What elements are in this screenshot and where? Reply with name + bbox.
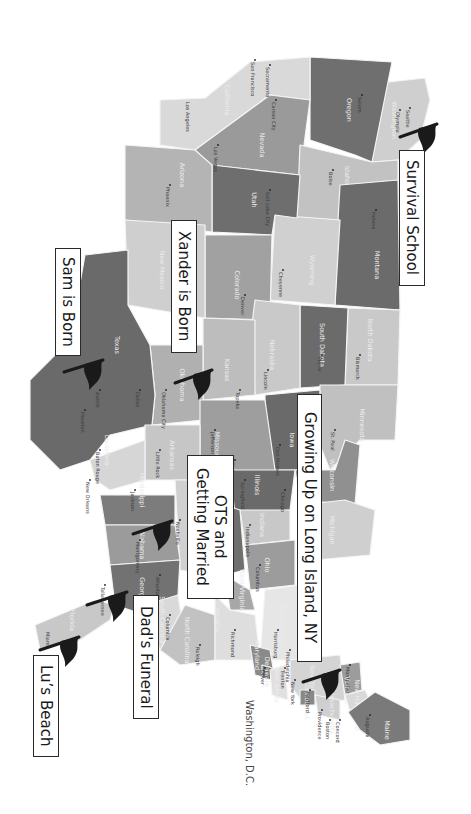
city-dot-icon (329, 719, 331, 721)
city-label-augusta: Augusta (364, 717, 371, 738)
event-label-dads-funeral: Dad's Funeral (133, 595, 159, 719)
state-label: South Carolina (158, 596, 166, 644)
city-label-pierre: Pierre (317, 357, 323, 371)
city-dot-icon (339, 719, 341, 721)
city-label-raleigh: Raleigh (194, 647, 201, 666)
city-label-nashville: Nashville (175, 522, 181, 545)
state-label: New Mexico (158, 251, 166, 290)
city-dot-icon (321, 354, 323, 356)
city-dot-icon (309, 689, 311, 691)
city-label-boston: Boston (325, 722, 331, 739)
city-dot-icon (279, 444, 281, 446)
city-label-new-york: New York (290, 682, 296, 705)
city-dot-icon (269, 189, 271, 191)
city-dot-icon (234, 459, 236, 461)
city-dot-icon (334, 429, 336, 431)
city-label-las-vegas: Las Vegas (212, 147, 219, 172)
city-label-denver: Denver (240, 297, 246, 316)
event-label-text: Lu’s Beach (37, 665, 56, 746)
washington-dc-label: Washington, D.C. (244, 700, 255, 786)
city-label-baton-rouge: Baton Rouge (94, 452, 101, 484)
city-dot-icon (134, 489, 136, 491)
state-label: Wyoming (308, 255, 316, 286)
state-label: Wisconsin (328, 459, 336, 491)
state-label: Kansas (223, 358, 231, 382)
city-dot-icon (409, 107, 411, 109)
state-label: Montana (373, 251, 381, 279)
city-label-harrisburg: Harrisburg (272, 632, 279, 658)
state-label: Nevada (258, 133, 266, 158)
city-label-montpelier: Montpelier (344, 667, 351, 695)
city-dot-icon (139, 539, 141, 541)
city-dot-icon (264, 667, 266, 669)
city-dot-icon (282, 269, 284, 271)
city-label-dover: Dover (260, 670, 266, 686)
city-dot-icon (179, 519, 181, 521)
city-dot-icon (249, 524, 251, 526)
event-label-lus-beach: Lu’s Beach (33, 655, 59, 757)
city-dot-icon (159, 574, 161, 576)
city-label-atlanta: Atlanta (155, 577, 161, 595)
city-label-cheyenne: Cheyenne (277, 272, 284, 297)
state-label: Florida (68, 609, 76, 631)
state-label: Illinois (253, 475, 261, 496)
city-dot-icon (267, 369, 269, 371)
city-dot-icon (217, 144, 219, 146)
city-dot-icon (244, 479, 246, 481)
state-label: Virginia (213, 608, 221, 633)
city-dot-icon (349, 664, 351, 666)
city-dot-icon (234, 629, 236, 631)
city-dot-icon (269, 64, 271, 66)
state-label: Texas (113, 335, 121, 355)
city-dot-icon (99, 449, 101, 451)
state-label: Michigan (328, 515, 336, 544)
city-label-indianapolis: Indianapolis (244, 527, 251, 558)
city-dot-icon (289, 649, 291, 651)
city-label-columbus: Columbus (255, 567, 261, 592)
city-label-hartford: Hartford (305, 692, 311, 713)
city-label-chicago: Chicago (279, 492, 286, 512)
states-layer: WashingtonOregonCaliforniaNevadaIdahoMon… (30, 57, 430, 745)
city-dot-icon (239, 389, 241, 391)
city-label-seattle: Seattle (405, 110, 411, 128)
city-dot-icon (99, 389, 101, 391)
city-dot-icon (254, 59, 256, 61)
city-label-providence: Providence (317, 712, 323, 740)
state-label: Ohio (263, 557, 271, 572)
city-dot-icon (332, 169, 334, 171)
city-label-columbia: Columbia (165, 617, 171, 641)
state-label: Mississippi (138, 473, 146, 508)
event-label-text: Sam is Born (59, 257, 78, 347)
city-label-san-francisco: San Francisco (250, 62, 256, 96)
city-dot-icon (214, 429, 216, 431)
state-label: North Dakota (366, 318, 374, 361)
city-label-montgomery: Montgomery (134, 542, 141, 574)
city-label-los-angeles: Los Angeles (184, 102, 191, 132)
city-label-dallas: Dallas (135, 392, 141, 408)
city-label-olympia: Olympia (394, 112, 401, 133)
event-label-long-island: Growing Up on Long Island, NY (297, 394, 322, 662)
city-label-houston: Houston (80, 412, 86, 433)
city-dot-icon (165, 389, 167, 391)
event-label-ots-married: OTS and Getting Married (187, 455, 234, 599)
map-canvas: WashingtonOregonCaliforniaNevadaIdahoMon… (0, 0, 471, 814)
state-label: Nebraska (268, 340, 276, 371)
city-label-springfield: Springfield (239, 482, 246, 509)
state-label: Maryland (253, 640, 261, 670)
event-label-text: Xander is Born (175, 231, 194, 341)
city-label-phoenix: Phoenix (165, 187, 171, 207)
state-label: Colorado (233, 270, 241, 299)
city-dot-icon (104, 584, 106, 586)
city-dot-icon (284, 667, 286, 669)
state-label: Louisiana (103, 435, 111, 466)
event-label-survival-school: Survival School (399, 150, 425, 286)
city-dot-icon (277, 629, 279, 631)
city-label-helena: Helena (371, 212, 377, 230)
city-label-austin: Austin (95, 392, 101, 408)
city-label-lincoln: Lincoln (263, 372, 269, 390)
us-map: WashingtonOregonCaliforniaNevadaIdahoMon… (0, 0, 471, 814)
city-label-trenton: Trenton (280, 669, 286, 689)
city-dot-icon (139, 389, 141, 391)
city-label-sacramento: Sacramento (265, 67, 271, 97)
city-dot-icon (259, 564, 261, 566)
